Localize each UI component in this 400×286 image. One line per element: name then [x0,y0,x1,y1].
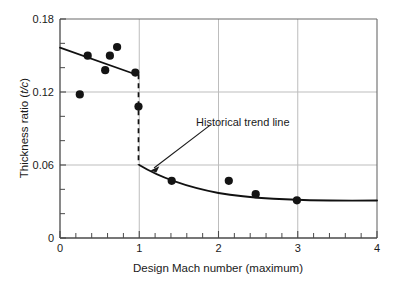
xtick-label-0: 0 [57,242,63,254]
data-point [113,43,121,51]
data-point [168,177,176,185]
ytick-label-0.18: 0.18 [33,13,54,25]
xtick-label-4: 4 [374,242,380,254]
xtick-label-1: 1 [136,242,142,254]
data-point [225,177,233,185]
data-point [101,66,109,74]
x-axis-title: Design Mach number (maximum) [133,262,303,274]
y-axis-title: Thickness ratio (t/c) [18,78,30,179]
ytick-label-0.12: 0.12 [33,86,54,98]
y-axis-title-prefix: Thickness ratio ( [18,94,30,179]
ytick-label-0: 0 [48,232,54,244]
data-point [293,196,301,204]
annotation-historical-trend-line-label: Historical trend line [196,116,290,128]
y-axis-title-suffix: ) [18,78,30,82]
data-point [84,52,92,60]
data-point [134,103,142,111]
ytick-label-0.06: 0.06 [33,159,54,171]
xtick-label-2: 2 [215,242,221,254]
y-axis-title-italic: t/c [18,81,30,93]
data-point [106,52,114,60]
data-point [76,90,84,98]
data-point [131,69,139,77]
xtick-label-3: 3 [295,242,301,254]
chart-container: 0.18 0.12 0.06 0 0 1 2 3 4 Design Mach n… [0,0,400,286]
thickness-ratio-vs-mach-chart: 0.18 0.12 0.06 0 0 1 2 3 4 Design Mach n… [0,0,400,286]
data-point [252,190,260,198]
